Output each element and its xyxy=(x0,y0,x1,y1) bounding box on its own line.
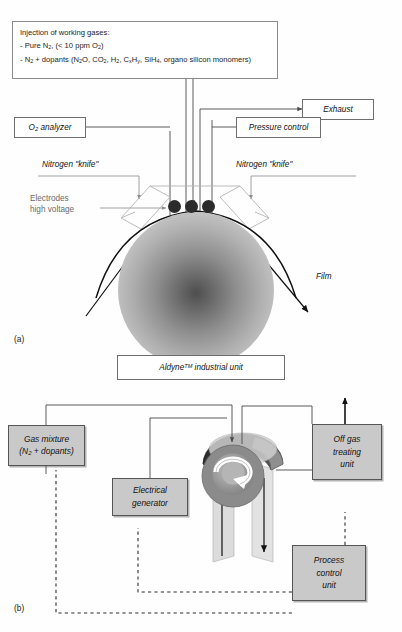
injection-line-1: - Pure N2, (< 10 ppm O2) xyxy=(20,39,271,53)
nitrogen-knife-left-label: Nitrogen "knife" xyxy=(42,160,98,169)
aldyne-title-label: AldyneTM industrial unit xyxy=(159,362,243,374)
o2-analyzer-box: O2 analyzer xyxy=(14,117,86,138)
electrodes-label-line-1: Electrodes xyxy=(30,193,74,204)
electrode-3 xyxy=(202,200,215,213)
machine-roller xyxy=(202,445,264,507)
gas-mixture-box: Gas mixture (N2 + dopants) xyxy=(8,425,85,466)
gas-mixture-line-1: Gas mixture xyxy=(19,433,73,446)
electrical-generator-box: Electrical generator xyxy=(112,478,188,516)
electrical-generator-line-1: Electrical xyxy=(132,484,168,497)
o2-analyzer-label: O2 analyzer xyxy=(29,122,72,134)
electrodes-high-voltage-label: Electrodes high voltage xyxy=(30,193,74,215)
process-control-unit-box: Process control unit xyxy=(292,545,366,601)
process-control-line-1: Process xyxy=(314,554,344,567)
process-control-line-2: control xyxy=(314,567,344,580)
electrode-2 xyxy=(185,200,198,213)
treatment-roller-a xyxy=(118,212,274,368)
off-gas-treating-unit-box: Off gas treating unit xyxy=(312,424,382,480)
exhaust-label: Exhaust xyxy=(323,104,353,116)
nitrogen-knife-right-label: Nitrogen "knife" xyxy=(236,160,292,169)
injection-line-2: - N2 + dopants (N2O, CO2, H2, CxHy, SiH4… xyxy=(20,53,271,67)
electrical-generator-line-2: generator xyxy=(132,497,168,510)
injection-of-working-gases-box: Injection of working gases: - Pure N2, (… xyxy=(12,21,278,79)
electrode-1 xyxy=(168,200,181,213)
off-gas-line-2: treating xyxy=(333,446,361,459)
off-gas-line-1: Off gas xyxy=(333,433,361,446)
aldyne-industrial-unit-box: AldyneTM industrial unit xyxy=(117,355,285,380)
gas-mixture-line-2: (N2 + dopants) xyxy=(19,445,73,458)
electrode-group xyxy=(168,200,226,214)
panel-a-tag: (a) xyxy=(14,334,24,344)
figure-container: Injection of working gases: - Pure N2, (… xyxy=(0,0,402,632)
pressure-control-label: Pressure control xyxy=(249,122,309,134)
film-label: Film xyxy=(316,272,331,281)
gas-feed-lines xyxy=(170,79,212,215)
pressure-control-box: Pressure control xyxy=(236,117,321,138)
panel-b-tag: (b) xyxy=(14,603,24,613)
injection-title: Injection of working gases: xyxy=(20,26,271,39)
nitrogen-knife-pointers xyxy=(38,176,356,199)
off-gas-line-3: unit xyxy=(333,458,361,471)
panel-b-piping xyxy=(46,398,345,478)
electrodes-label-line-2: high voltage xyxy=(30,204,74,215)
process-control-line-3: unit xyxy=(314,579,344,592)
